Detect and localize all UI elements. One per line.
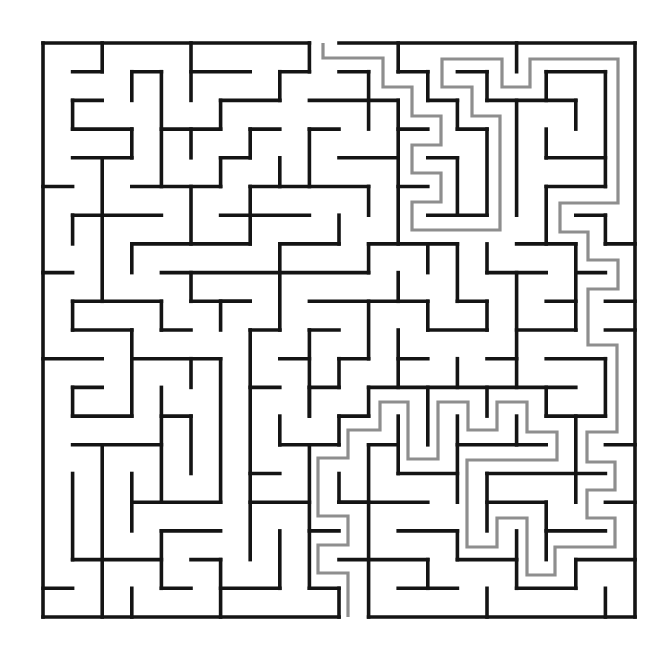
maze-walls [43,43,635,617]
maze-canvas [0,0,652,654]
maze-puzzle: Maze with highlighted solution path [0,0,652,654]
